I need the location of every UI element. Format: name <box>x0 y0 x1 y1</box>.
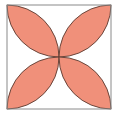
petal-square-diagram <box>0 0 122 119</box>
petal-bottom-right <box>59 57 111 109</box>
petal-top-right <box>59 5 111 57</box>
petals <box>7 5 111 109</box>
petal-bottom-left <box>7 57 59 109</box>
petal-top-left <box>7 5 59 57</box>
